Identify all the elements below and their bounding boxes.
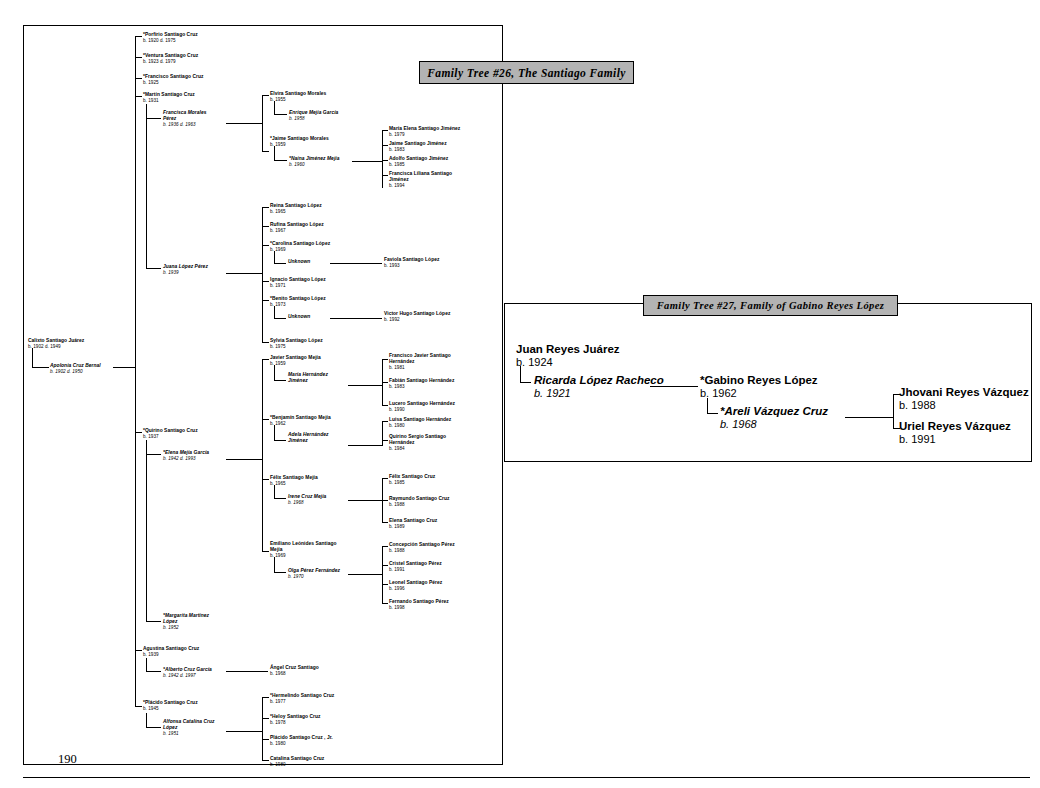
person-hermelindo: *Hermelindo Santiago Cruz b. 1977 <box>270 693 375 705</box>
person-francisca-liliana: Francisca Liliana Santiago Jiménez b. 19… <box>389 171 494 189</box>
main-tree-title: Family Tree #26, The Santiago Family <box>419 61 634 84</box>
footer-rule <box>23 777 1030 778</box>
person-ricarda-lopez: Ricarda López Racheco b. 1921 <box>534 373 699 401</box>
person-adolfo-jimenez: Adolfo Santiago Jiménez b. 1985 <box>389 156 494 168</box>
person-areli-vazquez: *Areli Vázquez Cruz b. 1968 <box>720 404 880 432</box>
person-uriel-reyes: Uriel Reyes Vázquez b. 1991 <box>899 419 1040 447</box>
person-fabian: Fabián Santiago Hernández b. 1983 <box>389 378 494 390</box>
person-jaime-santiago-morales: *Jaime Santiago Morales b. 1959 <box>270 136 370 148</box>
page-number: 190 <box>58 752 77 767</box>
person-catalina: Catalina Santiago Cruz b. 1980 <box>270 756 375 768</box>
person-calixto: Calixto Santiago Juárez b. 1902 d. 1949 <box>28 338 120 350</box>
person-quirino-sergio: Quirino Sergio Santiago Hernández b. 198… <box>389 434 494 452</box>
person-margarita-martinez: *Margarita Martínez López b. 1952 <box>163 613 253 631</box>
person-angel-cruz: Ángel Cruz Santiago b. 1968 <box>270 665 375 677</box>
person-maria-hernandez: María Hernández Jiménez <box>288 372 383 384</box>
person-placido: *Plácido Santiago Cruz b. 1945 <box>143 700 238 712</box>
person-martin: *Martín Santiago Cruz b. 1931 <box>143 92 238 104</box>
person-benito: *Benito Santiago López b. 1973 <box>270 296 370 308</box>
person-alberto-cruz: *Alberto Cruz García b. 1942 d. 1997 <box>163 667 253 679</box>
person-felix-cruz: Félix Santiago Cruz b. 1985 <box>389 474 494 486</box>
person-ventura: *Ventura Santiago Cruz b. 1923 d. 1979 <box>143 53 238 65</box>
person-concepcion: Concepción Santiago Pérez b. 1988 <box>389 542 494 554</box>
person-agustina: Agustina Santiago Cruz b. 1939 <box>143 646 238 658</box>
person-luisa: Luisa Santiago Hernández b. 1980 <box>389 417 494 429</box>
person-felix-mejia: Félix Santiago Mejía b. 1965 <box>270 475 370 487</box>
person-apolonia: Apolonia Cruz Bernal b. 1902 d. 1950 <box>50 363 142 375</box>
person-victor-hugo: Victor Hugo Santiago López b. 1992 <box>384 311 489 323</box>
side-tree-title: Family Tree #27, Family of Gabino Reyes … <box>643 295 898 316</box>
person-porfirio: *Porfirio Santiago Cruz b. 1920 d. 1975 <box>143 32 238 44</box>
person-placido-jr: Plácido Santiago Cruz , Jr. b. 1980 <box>270 735 375 747</box>
person-enrique-mejia: Enrique Mejía García b. 1958 <box>289 110 389 122</box>
person-faviola: Faviola Santiago López b. 1993 <box>384 257 489 269</box>
person-reina: Reina Santiago López b. 1965 <box>270 203 370 215</box>
person-lucero: Lucero Santiago Hernández b. 1990 <box>389 401 494 413</box>
person-cristel: Cristel Santiago Pérez b. 1991 <box>389 561 494 573</box>
person-maria-elena-jimenez: María Elena Santiago Jiménez b. 1979 <box>389 126 494 138</box>
person-leonel: Leonel Santiago Pérez b. 1996 <box>389 580 494 592</box>
person-francisca-morales: Francisca Morales Pérez b. 1936 d. 1963 <box>163 110 253 128</box>
person-ignacio: Ignacio Santiago López b. 1971 <box>270 277 370 289</box>
person-quirino: *Quirino Santiago Cruz b. 1937 <box>143 428 238 440</box>
person-sylvia: Sylvia Santiago López b. 1975 <box>270 338 370 350</box>
person-carolina: *Carolina Santiago López b. 1969 <box>270 241 370 253</box>
person-benjamin: *Benjamín Santiago Mejía b. 1962 <box>270 415 370 427</box>
person-elvira: Elvira Santiago Morales b. 1955 <box>270 91 370 103</box>
person-benito-spouse-unknown: Unknown <box>288 314 348 320</box>
person-francisco: *Francisco Santiago Cruz b. 1925 <box>143 74 238 86</box>
person-elena-cruz: Elena Santiago Cruz b. 1989 <box>389 518 494 530</box>
person-heloy: *Heloy Santiago Cruz b. 1978 <box>270 714 375 726</box>
person-alfonsa-catalina: Alfonsa Catalina Cruz López b. 1951 <box>163 719 253 737</box>
person-emiliano: Emiliano Leónides Santiago Mejía b. 1969 <box>270 541 370 559</box>
person-gabino-reyes: *Gabino Reyes López b. 1962 <box>700 373 875 401</box>
person-jaime-jimenez: Jaime Santiago Jiménez b. 1983 <box>389 141 494 153</box>
person-javier: Javier Santiago Mejía b. 1959 <box>270 355 370 367</box>
person-adela-hernandez: Adela Hernández Jiménez <box>288 432 383 444</box>
person-rufina: Rufina Santiago López b. 1967 <box>270 222 370 234</box>
person-fernando: Fernando Santiago Pérez b. 1998 <box>389 599 494 611</box>
person-carolina-spouse-unknown: Unknown <box>288 259 348 265</box>
person-raymundo: Raymundo Santiago Cruz b. 1988 <box>389 496 494 508</box>
genealogy-sheet: Family Tree #26, The Santiago Family Cal… <box>0 0 1040 788</box>
person-francisco-javier: Francisco Javier Santiago Hernández b. 1… <box>389 353 494 371</box>
person-jhovani-reyes: Jhovani Reyes Vázquez b. 1988 <box>899 385 1040 413</box>
person-juan-reyes: Juan Reyes Juárez b. 1924 <box>516 342 686 370</box>
